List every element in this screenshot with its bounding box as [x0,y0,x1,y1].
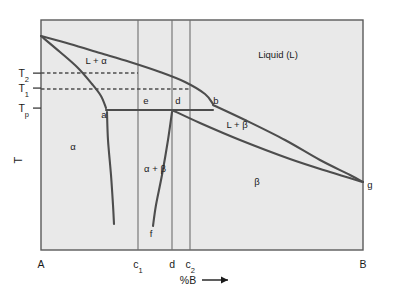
xtick-label-c2: c2 [185,258,194,275]
point-label-e: e [143,95,148,106]
region-label-alpha-plus-beta: α + β [144,163,166,174]
xtick-label-c1: c1 [133,258,142,275]
ytick-label-T1: T1 [18,82,29,99]
x-axis-arrow-head [221,277,228,284]
region-label-l-plus-alpha: L + α [85,55,107,66]
xtick-label-d: d [169,258,175,270]
y-axis-title: T [12,156,24,163]
point-label-d: d [175,95,180,106]
phase-diagram-figure: T2T1TpTAc1dc2B%BLiquid (L)L + αL + βαα +… [0,0,394,297]
xtick-label-B: B [359,258,366,270]
ytick-sub-Tp: p [25,110,29,119]
region-label-alpha: α [70,141,76,152]
phase-diagram-svg: T2T1TpTAc1dc2B%BLiquid (L)L + αL + βαα +… [0,0,394,297]
x-axis-title: %B [180,274,196,286]
region-label-beta: β [254,176,260,187]
region-label-l-plus-beta: L + β [226,119,248,130]
point-label-a: a [101,109,107,120]
point-label-g: g [367,179,372,190]
ytick-sub-T1: 1 [25,90,29,99]
xtick-label-A: A [37,258,44,270]
region-label-liquid: Liquid (L) [258,49,298,60]
point-label-b: b [213,95,218,106]
point-label-f: f [150,228,153,239]
xtick-sub-c1: 1 [138,266,142,275]
ytick-sub-T2: 2 [25,75,29,84]
ytick-label-Tp: Tp [18,102,29,119]
